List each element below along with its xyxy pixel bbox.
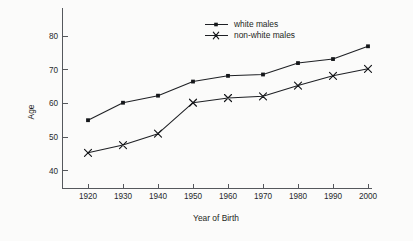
- data-point: [191, 80, 195, 84]
- x-axis-title: Year of Birth: [193, 213, 239, 223]
- data-point: [366, 44, 370, 48]
- x-tick-label: 1970: [254, 192, 273, 201]
- chart-legend: white males non-white males: [205, 19, 295, 40]
- data-point: [331, 57, 335, 61]
- x-axis-ticks: [88, 184, 368, 189]
- line-chart: 80 70 60 50 40 Age 1920 1930 1940 1950 1…: [0, 0, 413, 241]
- data-point: [226, 74, 230, 78]
- data-point: [295, 82, 302, 89]
- series-layer: [85, 44, 372, 156]
- series-line: [88, 69, 368, 153]
- data-point: [156, 94, 160, 98]
- data-point: [155, 130, 162, 137]
- x-tick-label: 1940: [149, 192, 168, 201]
- series-non-white-males: [85, 65, 372, 156]
- x-tick-label: 1930: [114, 192, 133, 201]
- legend-label-white-males: white males: [233, 19, 278, 29]
- x-tick-label: 2000: [359, 192, 378, 201]
- legend-marker-square: [214, 23, 218, 27]
- data-point: [120, 142, 127, 149]
- data-point: [85, 149, 92, 156]
- data-point: [121, 101, 125, 105]
- y-tick-label: 70: [49, 66, 59, 75]
- x-tick-label: 1980: [289, 192, 308, 201]
- y-tick-label: 80: [49, 32, 59, 41]
- data-point: [296, 61, 300, 65]
- series-line: [88, 46, 368, 120]
- x-tick-label: 1950: [184, 192, 203, 201]
- y-axis-tick-labels: 80 70 60 50 40: [49, 32, 59, 175]
- x-tick-label: 1920: [79, 192, 98, 201]
- data-point: [261, 73, 265, 77]
- chart-figure: 80 70 60 50 40 Age 1920 1930 1940 1950 1…: [0, 0, 413, 241]
- data-point: [86, 118, 90, 122]
- y-tick-label: 50: [49, 133, 59, 142]
- x-tick-label: 1960: [219, 192, 238, 201]
- legend-label-non-white-males: non-white males: [234, 30, 295, 40]
- y-tick-label: 40: [49, 167, 59, 176]
- y-tick-label: 60: [49, 99, 59, 108]
- x-tick-label: 1990: [324, 192, 343, 201]
- y-axis-ticks: [63, 36, 68, 170]
- y-axis-title: Age: [26, 104, 36, 119]
- series-white-males: [86, 44, 370, 122]
- x-axis-tick-labels: 1920 1930 1940 1950 1960 1970 1980 1990 …: [79, 192, 378, 201]
